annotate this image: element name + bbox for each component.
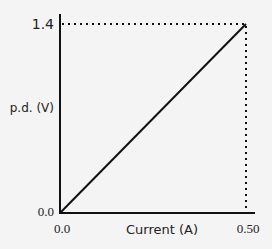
pd-current-chart: 1.4 0.0 0.0 0.50 p.d. (V) Current (A): [0, 0, 272, 249]
y-tick-max: 1.4: [32, 16, 54, 32]
x-axis-label: Current (A): [126, 222, 198, 237]
x-tick-min: 0.0: [54, 221, 70, 236]
y-tick-min: 0.0: [38, 204, 54, 219]
y-axis-label: p.d. (V): [10, 101, 54, 115]
data-line: [60, 24, 246, 213]
x-tick-max: 0.50: [237, 221, 260, 236]
